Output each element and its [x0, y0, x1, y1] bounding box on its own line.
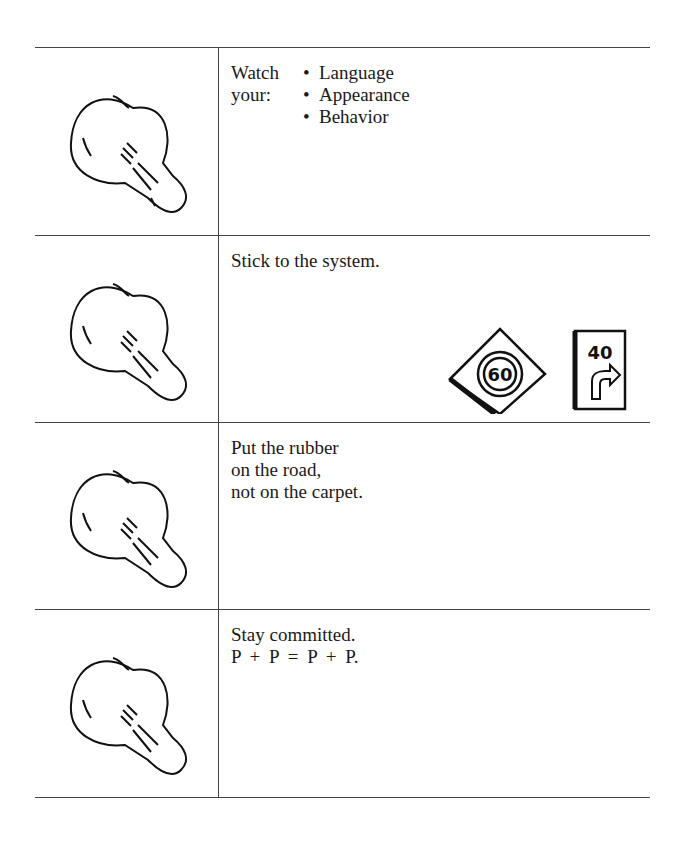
tip-row-4: Stay committed. P + P = P + P. — [35, 609, 650, 798]
tip-row-1: Watch your: Language Appearance Behavior — [35, 47, 650, 235]
tip-line: Put the rubber — [231, 437, 638, 459]
tip-row-2: Stick to the system. 60 40 — [35, 235, 650, 422]
bullet-language: Language — [303, 62, 410, 84]
tip-system: Stick to the system. — [231, 250, 380, 271]
lightbulb-icon — [63, 630, 203, 780]
tip-line: not on the carpet. — [231, 481, 638, 503]
tip-line: Stay committed. — [231, 624, 638, 646]
watch-lead: Watch your: — [231, 62, 303, 128]
svg-text:40: 40 — [587, 342, 612, 363]
bulb-cell — [35, 610, 219, 797]
tip-text: Watch your: Language Appearance Behavior — [219, 48, 650, 235]
tip-row-3: Put the rubber on the road, not on the c… — [35, 422, 650, 609]
bullet-behavior: Behavior — [303, 106, 410, 128]
lightbulb-icon — [63, 443, 203, 593]
bulb-cell — [35, 236, 219, 422]
svg-text:60: 60 — [487, 364, 512, 385]
watch-list: Watch your: Language Appearance Behavior — [231, 62, 638, 128]
lightbulb-icon — [63, 256, 203, 406]
lightbulb-icon — [63, 68, 203, 218]
tip-equation: P + P = P + P. — [231, 646, 638, 668]
road-signs-icon: 60 40 — [440, 319, 640, 414]
tip-text: Put the rubber on the road, not on the c… — [219, 423, 650, 609]
bulb-cell — [35, 48, 219, 235]
tip-text: Stay committed. P + P = P + P. — [219, 610, 650, 797]
bulb-cell — [35, 423, 219, 609]
tip-text: Stick to the system. 60 40 — [219, 236, 650, 422]
tips-table: Watch your: Language Appearance Behavior… — [35, 47, 650, 798]
bullet-appearance: Appearance — [303, 84, 410, 106]
tip-line: on the road, — [231, 459, 638, 481]
